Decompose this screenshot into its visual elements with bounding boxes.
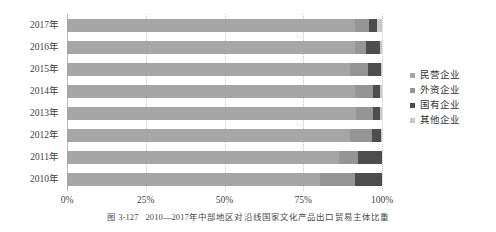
bar-segment (67, 19, 355, 32)
figure-caption-text: 2010—2017年中部地区对沿线国家文化产品出口贸易主体比重 (146, 212, 390, 222)
legend-item[interactable]: 外资企业 (410, 83, 496, 97)
bar-series-group (67, 14, 382, 191)
legend-swatch-icon (410, 103, 415, 108)
x-axis-tick-label: 100% (371, 193, 393, 207)
bar-row (67, 151, 382, 164)
bar-row (67, 63, 382, 76)
y-axis-tick-label: 2012年 (30, 129, 59, 142)
bar-segment (67, 151, 339, 164)
plot-area (67, 14, 382, 191)
bar-row (67, 41, 382, 54)
legend-swatch-icon (410, 73, 415, 78)
bar-segment (380, 85, 382, 98)
legend-item[interactable]: 国有企业 (410, 98, 496, 112)
gridline-100pct (382, 14, 384, 191)
figure-caption: 图 3-1272010—2017年中部地区对沿线国家文化产品出口贸易主体比重 (0, 211, 496, 223)
legend-swatch-icon (410, 88, 415, 93)
y-axis-tick-label: 2010年 (30, 173, 59, 186)
bar-segment (339, 151, 358, 164)
legend-label: 外资企业 (420, 83, 460, 97)
legend-swatch-icon (410, 118, 415, 123)
bar-segment (373, 85, 381, 98)
bar-segment (67, 129, 350, 142)
bar-segment (366, 41, 380, 54)
y-axis-tick-label: 2013年 (30, 107, 59, 120)
bar-segment (67, 173, 320, 186)
bar-segment (67, 107, 356, 120)
y-axis-tick-label: 2014年 (30, 85, 59, 98)
legend-item[interactable]: 民营企业 (410, 68, 496, 82)
bar-segment (355, 173, 382, 186)
bar-segment (377, 19, 382, 32)
figure-container: 2017年2016年2015年2014年2013年2012年2011年2010年… (0, 0, 496, 232)
x-axis-tick-label: 50% (216, 193, 233, 207)
bar-segment (358, 151, 382, 164)
chart-legend: 民营企业外资企业国有企业其他企业 (410, 68, 496, 128)
bar-segment (380, 41, 382, 54)
bar-segment (380, 107, 382, 120)
bar-segment (355, 19, 369, 32)
bar-segment (350, 63, 368, 76)
y-axis-tick-label: 2015年 (30, 63, 59, 76)
bar-segment (381, 63, 382, 76)
y-axis-tick-label: 2011年 (30, 151, 59, 164)
bar-row (67, 19, 382, 32)
bar-segment (67, 41, 355, 54)
legend-label: 民营企业 (420, 68, 460, 82)
bar-segment (369, 19, 376, 32)
bar-row (67, 85, 382, 98)
y-axis-tick-label: 2017年 (30, 19, 59, 32)
y-axis-labels: 2017年2016年2015年2014年2013年2012年2011年2010年 (0, 14, 63, 191)
bar-row (67, 107, 382, 120)
x-axis-tick-label: 0% (61, 193, 74, 207)
legend-label: 其他企业 (420, 113, 460, 127)
figure-number: 图 3-127 (107, 212, 139, 222)
bar-segment (350, 129, 372, 142)
y-axis-tick-label: 2016年 (30, 41, 59, 54)
legend-label: 国有企业 (420, 98, 460, 112)
bar-row (67, 173, 382, 186)
bar-segment (67, 85, 355, 98)
bar-segment (355, 85, 373, 98)
bar-segment (372, 129, 381, 142)
bar-segment (356, 107, 373, 120)
bar-row (67, 129, 382, 142)
legend-item[interactable]: 其他企业 (410, 113, 496, 127)
bar-segment (67, 63, 350, 76)
bar-segment (373, 107, 381, 120)
bar-segment (368, 63, 381, 76)
x-axis-labels: 0%25%50%75%100% (0, 193, 496, 207)
x-axis-tick-label: 25% (137, 193, 154, 207)
bar-segment (381, 129, 382, 142)
x-axis-tick-label: 75% (295, 193, 312, 207)
bar-segment (320, 173, 355, 186)
bar-segment (355, 41, 366, 54)
